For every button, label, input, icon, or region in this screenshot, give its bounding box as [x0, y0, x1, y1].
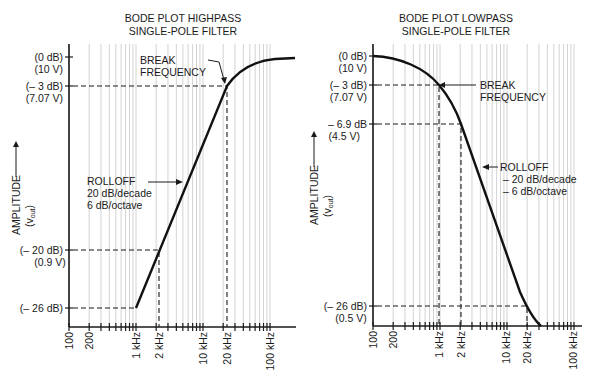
hp-rolloff-label: ROLLOFF	[87, 175, 135, 187]
hp-break-arrow	[208, 60, 224, 80]
svg-text:100 kHz: 100 kHz	[567, 331, 579, 370]
hp-break-label-1: BREAK	[140, 54, 176, 66]
hp-y-label-3db: (– 3 dB)	[26, 80, 63, 92]
svg-text:2 kHz: 2 kHz	[455, 331, 467, 358]
svg-text:(vout): (vout)	[321, 195, 334, 217]
svg-text:20 kHz: 20 kHz	[221, 332, 233, 365]
hp-y-label-09v: (0.9 V)	[34, 256, 66, 268]
lp-rolloff-label: ROLLOFF	[500, 161, 548, 173]
svg-text:10 kHz: 10 kHz	[500, 331, 512, 364]
lp-y-label-10v: (10 V)	[338, 62, 367, 74]
lp-rolloff-rate2: – 6 dB/octave	[503, 185, 567, 197]
hp-y-label-707v: (7.07 V)	[26, 92, 63, 104]
svg-text:2 kHz: 2 kHz	[153, 332, 165, 359]
svg-text:10 kHz: 10 kHz	[197, 332, 209, 365]
lp-y-label-0db: (0 dB)	[338, 50, 367, 62]
hp-rolloff-rate1: 20 dB/decade	[87, 187, 152, 199]
svg-text:20 kHz: 20 kHz	[521, 331, 533, 364]
lp-break-label-1: BREAK	[480, 79, 516, 91]
svg-text:(vout): (vout)	[23, 205, 36, 227]
highpass-curve	[136, 58, 295, 308]
svg-text:200: 200	[387, 331, 399, 349]
lp-guide-69db	[377, 124, 461, 326]
hp-x-labels: 100 200 1 kHz 2 kHz 10 kHz 20 kHz 100 kH…	[63, 332, 276, 371]
svg-text:100: 100	[63, 332, 75, 350]
lowpass-title-line1: BODE PLOT LOWPASS	[399, 12, 513, 24]
lp-y-label-45v: (4.5 V)	[328, 130, 360, 142]
hp-y-label-20db: (– 20 dB)	[20, 244, 63, 256]
lp-y-label-69db: – 6.9 dB	[328, 118, 367, 130]
svg-text:AMPLITUDE: AMPLITUDE	[308, 165, 320, 225]
hp-rolloff-rate2: 6 dB/octave	[87, 199, 143, 211]
lowpass-title-line2: SINGLE-POLE FILTER	[402, 25, 511, 37]
lp-y-label-05v: (0.5 V)	[335, 312, 367, 324]
bode-plots-figure: BODE PLOT HIGHPASS SINGLE-POLE FILTER (0…	[0, 0, 593, 386]
highpass-chart: BODE PLOT HIGHPASS SINGLE-POLE FILTER (0…	[10, 12, 296, 371]
hp-break-label-2: FREQUENCY	[140, 66, 206, 78]
highpass-title-line1: BODE PLOT HIGHPASS	[125, 12, 241, 24]
highpass-title-line2: SINGLE-POLE FILTER	[129, 25, 238, 37]
lowpass-chart: BODE PLOT LOWPASS SINGLE-POLE FILTER (0 …	[308, 12, 582, 370]
lp-y-label-3db: (– 3 dB)	[330, 79, 367, 91]
lp-y-label-26db: (– 26 dB)	[324, 300, 367, 312]
hp-y-label-0db: (0 dB)	[34, 51, 63, 63]
svg-text:100 kHz: 100 kHz	[264, 332, 276, 371]
svg-text:AMPLITUDE: AMPLITUDE	[10, 175, 22, 235]
lp-y-label-707v: (7.07 V)	[330, 91, 367, 103]
lp-break-label-2: FREQUENCY	[480, 91, 546, 103]
lp-y-axis-title: AMPLITUDE (vout)	[308, 131, 334, 225]
svg-text:1 kHz: 1 kHz	[433, 331, 445, 358]
lp-x-labels: 100 200 1 kHz 2 kHz 10 kHz 20 kHz 100 kH…	[367, 331, 579, 370]
hp-y-axis-title: AMPLITUDE (vout)	[10, 141, 36, 235]
svg-text:200: 200	[83, 332, 95, 350]
svg-text:100: 100	[367, 331, 379, 349]
hp-y-label-10v: (10 V)	[34, 63, 63, 75]
lp-rolloff-rate1: – 20 dB/decade	[503, 173, 577, 185]
svg-text:1 kHz: 1 kHz	[130, 332, 142, 359]
hp-y-label-26db: (– 26 dB)	[20, 302, 63, 314]
